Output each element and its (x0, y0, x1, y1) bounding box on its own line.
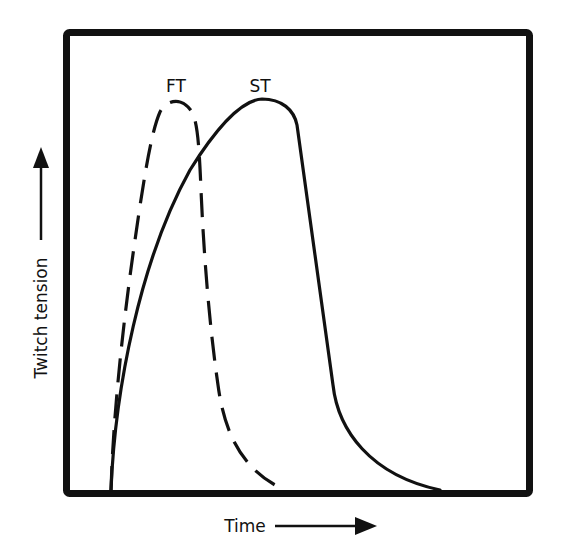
x-axis-arrow-icon (275, 517, 377, 535)
twitch-tension-diagram: FT ST Twitch tension Time (0, 0, 562, 556)
y-axis-arrow-icon (33, 147, 49, 240)
plot-frame (67, 33, 530, 494)
st-label: ST (249, 76, 271, 96)
ft-label: FT (166, 76, 186, 96)
y-axis-label: Twitch tension (31, 257, 51, 379)
st-curve (111, 99, 440, 490)
x-axis-label: Time (223, 516, 266, 536)
